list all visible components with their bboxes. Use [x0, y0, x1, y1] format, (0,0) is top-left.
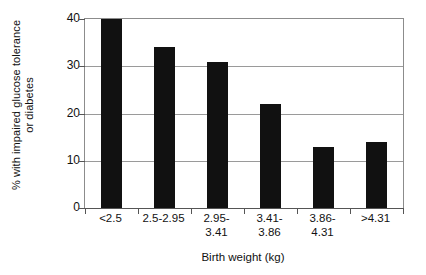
- y-tick-mark: [79, 19, 85, 20]
- y-tick-mark: [79, 114, 85, 115]
- y-tick-mark: [79, 66, 85, 67]
- bar-chart-figure: % with impaired glucose tolerance or dia…: [0, 0, 426, 275]
- y-tick-label: 40: [54, 12, 80, 24]
- gridline: [85, 114, 403, 115]
- bar[interactable]: [260, 104, 281, 208]
- y-tick-label: 0: [54, 201, 80, 213]
- x-axis-tick-labels: <2.52.5-2.952.95-3.413.41-3.863.86-4.31>…: [84, 211, 402, 249]
- x-tick-label-line1: 3.86-: [309, 212, 335, 224]
- y-tick-label: 10: [54, 154, 80, 166]
- gridline: [85, 161, 403, 162]
- bar[interactable]: [101, 19, 122, 208]
- x-tick-label-line1: 3.41-: [256, 212, 282, 224]
- x-tick-label: >4.31: [343, 211, 408, 225]
- x-tick-label-line1: >4.31: [361, 212, 390, 224]
- x-tick-label-line1: 2.95-: [203, 212, 229, 224]
- y-axis-tick-labels: 010203040: [50, 0, 80, 275]
- bar[interactable]: [207, 62, 228, 208]
- y-axis-title: % with impaired glucose tolerance or dia…: [0, 0, 46, 210]
- x-tick-label-line2: 4.31: [290, 225, 355, 239]
- x-tick-label-line1: <2.5: [99, 212, 122, 224]
- gridline: [85, 66, 403, 67]
- bar[interactable]: [313, 147, 334, 208]
- bar[interactable]: [366, 142, 387, 208]
- y-axis-title-line2: or diabetes: [23, 20, 36, 190]
- y-tick-mark: [79, 161, 85, 162]
- y-tick-label: 30: [54, 59, 80, 71]
- y-axis-title-line1: % with impaired glucose tolerance: [10, 20, 22, 190]
- x-tick-label-line1: 2.5-2.95: [142, 212, 184, 224]
- y-tick-label: 20: [54, 107, 80, 119]
- plot-area: [84, 18, 404, 209]
- bar[interactable]: [154, 47, 175, 208]
- x-axis-title: Birth weight (kg): [84, 251, 402, 263]
